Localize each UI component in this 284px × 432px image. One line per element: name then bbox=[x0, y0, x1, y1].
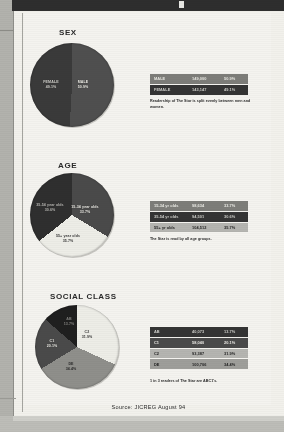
cell-percent: 31.9% bbox=[224, 348, 248, 359]
cell-percent: 49.1% bbox=[224, 84, 248, 95]
cell-percent: 35.7% bbox=[224, 222, 248, 233]
table-row: 55+ yr olds 104,512 35.7% bbox=[150, 222, 248, 233]
pie-slice-pct-male: 50.9% bbox=[78, 85, 89, 89]
page-margin-line bbox=[22, 13, 23, 412]
cell-value: 98,634 bbox=[192, 201, 224, 211]
cell-percent: 50.9% bbox=[224, 74, 248, 84]
section-title-sex: SEX bbox=[59, 28, 77, 37]
pie-slice-pct-age-35-54: 30.6% bbox=[45, 208, 56, 212]
pie-slice-pct-age-15-34: 33.7% bbox=[80, 210, 91, 214]
page-edge-line-left bbox=[13, 11, 14, 416]
cell-value: 104,512 bbox=[192, 222, 224, 233]
data-table-social-class: AB 40,073 13.7% C1 58,040 20.1% C2 93,38… bbox=[150, 327, 248, 370]
table-row: C1 58,040 20.1% bbox=[150, 337, 248, 348]
cell-value: 58,040 bbox=[192, 337, 224, 348]
data-table-age: 15-34 yr olds 98,634 33.7% 35-54 yr olds… bbox=[150, 201, 248, 233]
cell-label: C2 bbox=[150, 348, 192, 359]
pie-slice-name-c1: C1 bbox=[50, 339, 55, 343]
page-top-dark-band bbox=[12, 0, 284, 11]
pie-slice-name-de: DE bbox=[68, 362, 73, 366]
pie-slice-pct-c2: 31.9% bbox=[82, 335, 93, 339]
pie-slice-label-male: MALE 50.9% bbox=[70, 80, 96, 90]
pie-slice-pct-ab: 13.7% bbox=[64, 322, 75, 326]
caption-sex: Readership of The Star is split evenly b… bbox=[150, 99, 254, 111]
pie-slice-label-ab: AB 13.7% bbox=[58, 317, 80, 327]
pie-slice-label-female: FEMALE 49.1% bbox=[38, 80, 64, 90]
table-row: FEMALE 143,147 49.1% bbox=[150, 84, 248, 95]
cell-value: 93,387 bbox=[192, 348, 224, 359]
cell-percent: 30.6% bbox=[224, 211, 248, 222]
page-edge-line-top bbox=[0, 30, 14, 31]
caption-social-class: 1 in 3 readers of The Star are ABC1's. bbox=[150, 379, 254, 385]
pie-slice-name-age-35-54: 35-54 year olds bbox=[36, 203, 63, 207]
pie-slice-label-de: DE 34.4% bbox=[60, 362, 82, 372]
pie-slice-pct-age-55plus: 35.7% bbox=[63, 239, 74, 243]
cell-percent: 13.7% bbox=[224, 327, 248, 337]
cell-label: DE bbox=[150, 359, 192, 370]
cell-label: 55+ yr olds bbox=[150, 222, 192, 233]
cell-label: FEMALE bbox=[150, 84, 192, 95]
pie-slice-label-age-35-54: 35-54 year olds 30.6% bbox=[34, 203, 66, 213]
cell-value: 40,073 bbox=[192, 327, 224, 337]
pie-slice-name-age-15-34: 15-34 year olds bbox=[71, 205, 98, 209]
pie-slice-name-c2: C2 bbox=[85, 330, 90, 334]
pie-slice-pct-c1: 20.1% bbox=[47, 344, 58, 348]
cell-percent: 33.7% bbox=[224, 201, 248, 211]
section-title-social-class: SOCIAL CLASS bbox=[50, 292, 117, 301]
cell-label: MALE bbox=[150, 74, 192, 84]
pie-slice-label-age-55plus: 55+ year olds 35.7% bbox=[52, 234, 84, 244]
pie-slice-pct-de: 34.4% bbox=[66, 367, 77, 371]
cell-label: AB bbox=[150, 327, 192, 337]
pie-slice-pct-female: 49.1% bbox=[46, 85, 57, 89]
caption-age: The Star is read by all age groups. bbox=[150, 237, 254, 243]
pie-slice-label-c2: C2 31.9% bbox=[76, 330, 98, 340]
cell-value: 100,706 bbox=[192, 359, 224, 370]
cell-label: 35-54 yr olds bbox=[150, 211, 192, 222]
source-line: Source: JICREG August 94 bbox=[13, 404, 284, 410]
table-row: AB 40,073 13.7% bbox=[150, 327, 248, 337]
cell-label: 15-34 yr olds bbox=[150, 201, 192, 211]
cell-value: 94,501 bbox=[192, 211, 224, 222]
scanned-page: SEX MALE 50.9% FEMALE 49.1% MALE 149,000… bbox=[0, 0, 284, 432]
cell-value: 143,147 bbox=[192, 84, 224, 95]
cell-value: 149,000 bbox=[192, 74, 224, 84]
cell-label: C1 bbox=[150, 337, 192, 348]
table-row: C2 93,387 31.9% bbox=[150, 348, 248, 359]
table-row: 15-34 yr olds 98,634 33.7% bbox=[150, 201, 248, 211]
pie-slice-name-age-55plus: 55+ year olds bbox=[56, 234, 80, 238]
pie-slice-name-ab: AB bbox=[66, 317, 71, 321]
pie-slice-name-male: MALE bbox=[78, 80, 89, 84]
data-table-sex: MALE 149,000 50.9% FEMALE 143,147 49.1% bbox=[150, 74, 248, 96]
page-edge-line-bottom bbox=[0, 398, 16, 399]
table-row: DE 100,706 34.4% bbox=[150, 359, 248, 370]
pie-slice-label-age-15-34: 15-34 year olds 33.7% bbox=[69, 205, 101, 215]
cell-percent: 34.4% bbox=[224, 359, 248, 370]
pie-slice-name-female: FEMALE bbox=[43, 80, 58, 84]
table-row: MALE 149,000 50.9% bbox=[150, 74, 248, 84]
table-row: 35-54 yr olds 94,501 30.6% bbox=[150, 211, 248, 222]
page-bottom-band-inner bbox=[13, 416, 284, 421]
section-title-age: AGE bbox=[58, 161, 77, 170]
pie-slice-label-c1: C1 20.1% bbox=[41, 339, 63, 349]
cell-percent: 20.1% bbox=[224, 337, 248, 348]
